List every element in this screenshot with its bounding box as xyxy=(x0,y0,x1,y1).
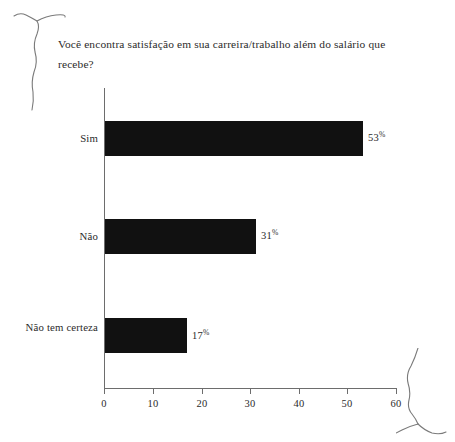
x-tick-label-30: 30 xyxy=(244,398,255,409)
x-tick-label-10: 10 xyxy=(147,398,158,409)
x-tick-mark-50 xyxy=(347,388,348,394)
bar-value-nao: 31% xyxy=(261,230,278,241)
category-label-sim: Sim xyxy=(8,131,98,146)
x-tick-mark-40 xyxy=(299,388,300,394)
bar-nao xyxy=(105,219,256,254)
bar-value-naotemcerteza-suffix: % xyxy=(203,328,210,337)
category-label-naotemcerteza: Não tem certeza xyxy=(8,320,98,335)
category-label-nao: Não xyxy=(8,229,98,244)
x-tick-mark-30 xyxy=(250,388,251,394)
chart-page: Você encontra satisfação em sua carreira… xyxy=(0,0,455,442)
chart-plot-area: Sim 53% Não 31% Não tem certeza 17% 0 xyxy=(0,0,455,442)
x-tick-mark-20 xyxy=(202,388,203,394)
x-tick-label-0: 0 xyxy=(101,398,107,409)
x-tick-mark-0 xyxy=(104,388,105,394)
x-tick-label-50: 50 xyxy=(341,398,352,409)
bar-value-sim-number: 53 xyxy=(368,132,379,143)
bar-value-sim: 53% xyxy=(368,132,385,143)
x-tick-mark-60 xyxy=(396,388,397,394)
bar-sim xyxy=(105,121,363,156)
x-tick-label-60: 60 xyxy=(390,398,401,409)
bar-value-nao-number: 31 xyxy=(261,230,272,241)
bar-value-naotemcerteza: 17% xyxy=(192,330,209,341)
x-tick-label-20: 20 xyxy=(196,398,207,409)
bar-value-naotemcerteza-number: 17 xyxy=(192,330,203,341)
x-tick-mark-10 xyxy=(153,388,154,394)
x-tick-label-40: 40 xyxy=(293,398,304,409)
bar-value-sim-suffix: % xyxy=(379,130,386,139)
bar-naotemcerteza xyxy=(105,318,187,353)
bar-value-nao-suffix: % xyxy=(272,228,279,237)
